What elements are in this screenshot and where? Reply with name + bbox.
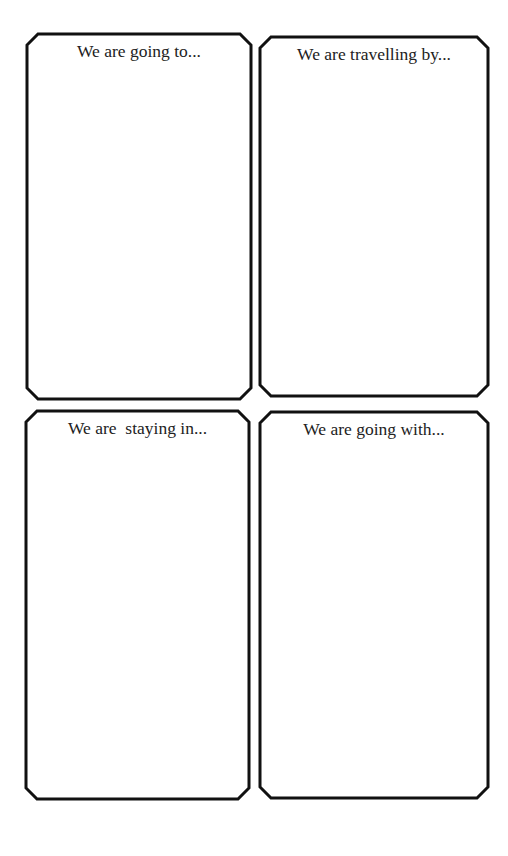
- card-prompt-destination: We are going to...: [27, 41, 251, 62]
- card-companions: We are going with...: [260, 412, 488, 798]
- card-accommodation: We are staying in...: [26, 411, 249, 799]
- card-destination: We are going to...: [27, 34, 251, 399]
- card-prompt-transport: We are travelling by...: [260, 44, 488, 65]
- card-transport: We are travelling by...: [260, 37, 488, 396]
- card-prompt-accommodation: We are staying in...: [26, 418, 249, 439]
- card-prompt-companions: We are going with...: [260, 419, 488, 440]
- writing-area-companions[interactable]: [272, 452, 476, 786]
- writing-area-transport[interactable]: [272, 77, 476, 384]
- writing-area-accommodation[interactable]: [38, 451, 237, 787]
- writing-area-destination[interactable]: [39, 74, 239, 387]
